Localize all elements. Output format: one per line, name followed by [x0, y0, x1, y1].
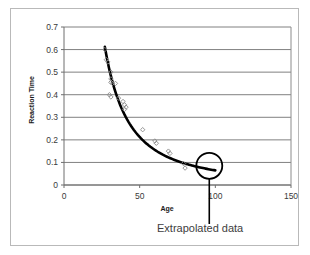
x-tick-label: 150 [284, 191, 298, 201]
y-tick-label: 0.6 [46, 45, 58, 55]
figure-container: 00.10.20.30.40.50.60.7 050100150 Age Rea… [0, 0, 310, 255]
y-tick-label: 0.2 [46, 135, 58, 145]
y-tick-label: 0.3 [46, 112, 58, 122]
y-tick-label: 0.7 [46, 22, 58, 32]
x-tick-label: 100 [208, 191, 222, 201]
x-tick-label: 50 [135, 191, 145, 201]
y-tick-label: 0.1 [46, 157, 58, 167]
y-tick-label: 0 [53, 180, 58, 190]
x-tick-group: 050100150 [62, 185, 299, 201]
y-tick-label: 0.5 [46, 67, 58, 77]
x-tick-label: 0 [62, 191, 67, 201]
y-tick-label: 0.4 [46, 90, 58, 100]
y-tick-group: 00.10.20.30.40.50.60.7 [46, 22, 64, 190]
x-axis-title: Age [160, 205, 173, 213]
extrapolated-data-label: Extrapolated data [157, 222, 244, 234]
y-axis-title: Reaction Time [28, 76, 35, 124]
reaction-time-vs-age-chart: 00.10.20.30.40.50.60.7 050100150 Age Rea… [0, 0, 310, 255]
